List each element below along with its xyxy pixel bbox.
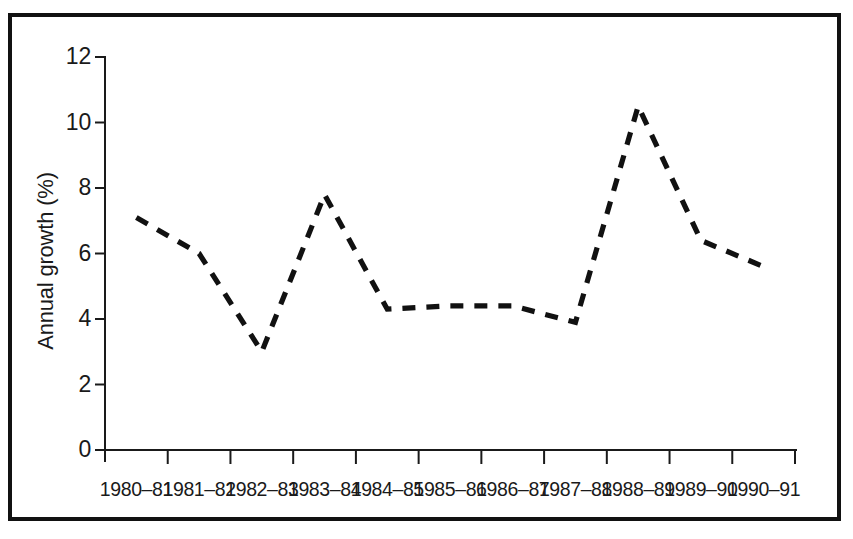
x-tick-label: 1990–91: [719, 480, 809, 500]
chart-figure: 024681012 1980–811981–821982–831983–8419…: [0, 0, 853, 539]
x-axis: [104, 450, 796, 464]
data-series-line: [136, 106, 763, 352]
y-tick-marks: [95, 57, 105, 450]
y-axis: [95, 57, 105, 452]
y-tick-label: 12: [43, 45, 91, 68]
y-axis-title: Annual growth (%): [33, 151, 59, 371]
plot-area: [0, 0, 853, 539]
y-tick-label: 10: [43, 111, 91, 134]
y-tick-label: 2: [43, 373, 91, 396]
y-tick-label: 0: [43, 438, 91, 461]
x-tick-marks: [105, 450, 795, 464]
